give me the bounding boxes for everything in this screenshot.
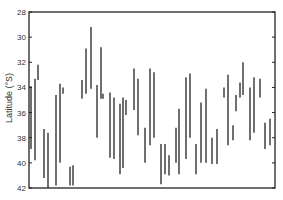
plot-frame: [29, 12, 275, 188]
y-tick-label: 36: [17, 109, 26, 118]
y-tick-label: 38: [17, 134, 26, 143]
y-tick-label: 40: [17, 159, 26, 168]
y-tick-label: 30: [17, 33, 26, 42]
y-axis-label: Latitude (°S): [4, 73, 14, 123]
range-bars: [31, 27, 270, 188]
y-tick-label: 34: [17, 83, 26, 92]
y-tick-label: 28: [17, 8, 26, 17]
y-tick-label: 32: [17, 58, 26, 67]
y-tick-label: 42: [17, 184, 26, 193]
latitude-range-chart: 2830323436384042 Latitude (°S): [0, 0, 283, 200]
